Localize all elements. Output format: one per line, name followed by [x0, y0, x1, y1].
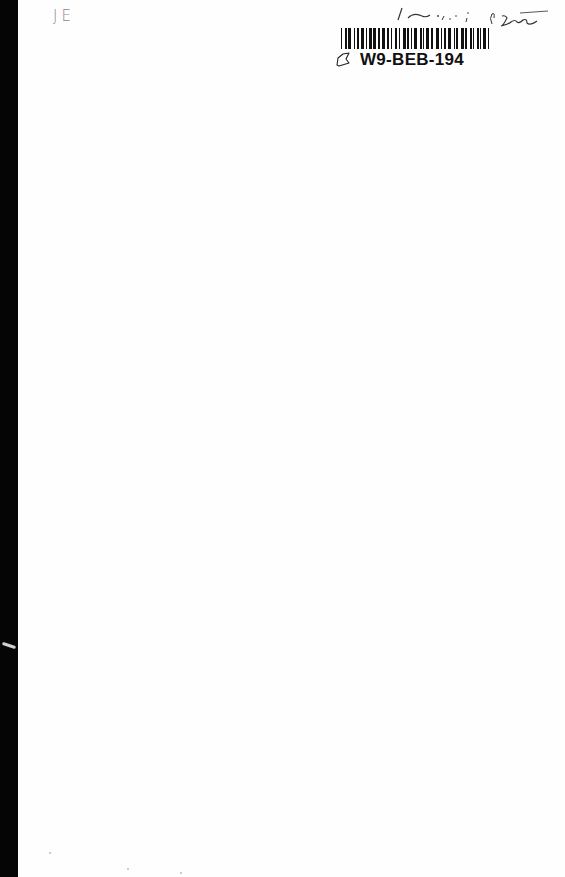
paper-speck	[127, 868, 129, 870]
barcode-label: W9-BEB-194	[335, 50, 464, 70]
paper-speck	[49, 852, 51, 854]
binding-edge	[0, 0, 18, 877]
barcode-bar	[473, 28, 474, 49]
barcode-bar	[436, 28, 439, 49]
barcode-bar	[369, 28, 372, 49]
barcode	[341, 28, 495, 49]
barcode-bar	[387, 28, 389, 49]
barcode-bar	[477, 28, 479, 49]
paper-speck	[180, 872, 182, 874]
barcode-bar	[361, 28, 364, 49]
barcode-bar	[357, 28, 359, 49]
barcode-bar	[354, 28, 355, 49]
barcode-number: W9-BEB-194	[360, 50, 464, 70]
barcode-bar	[345, 28, 347, 49]
book-page: JE W9-BEB-194	[0, 0, 565, 877]
barcode-bar	[470, 28, 472, 49]
barcode-bar	[382, 28, 385, 49]
barcode-bar	[414, 28, 417, 49]
barcode-bar	[465, 28, 467, 49]
barcode-bar	[391, 28, 392, 49]
barcode-bar	[431, 28, 433, 49]
barcode-bar	[407, 28, 409, 49]
barcode-bar	[423, 28, 424, 49]
barcode-bar	[426, 28, 429, 49]
barcode-bar	[411, 28, 412, 49]
barcode-bar	[480, 28, 481, 49]
barcode-bar	[461, 28, 464, 49]
barcode-bar	[488, 28, 489, 49]
barcode-bar	[403, 28, 406, 49]
handwritten-initials: JE	[53, 7, 75, 25]
barcode-bar	[420, 28, 422, 49]
tag-outline-icon	[335, 52, 351, 68]
barcode-bar	[395, 28, 397, 49]
barcode-bar	[399, 28, 400, 49]
barcode-bar	[483, 28, 486, 49]
barcode-bar	[448, 28, 451, 49]
barcode-bar	[444, 28, 446, 49]
barcode-bar	[348, 28, 351, 49]
barcode-bar	[441, 28, 442, 49]
barcode-bar	[456, 28, 458, 49]
barcode-bar	[366, 28, 367, 49]
barcode-bar	[373, 28, 376, 49]
barcode-bar	[378, 28, 380, 49]
barcode-bar	[454, 28, 455, 49]
barcode-bar	[341, 28, 342, 49]
